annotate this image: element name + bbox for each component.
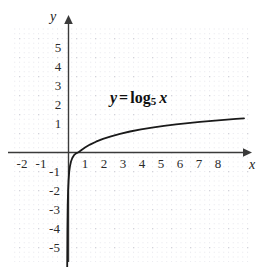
x-tick-label: 1 (79, 157, 91, 170)
y-tick-label: -4 (45, 222, 64, 235)
equation-annotation: y=log5x (110, 90, 167, 107)
y-tick-label: -3 (45, 203, 64, 216)
x-axis-label: x (249, 158, 255, 172)
y-tick-label: -1 (45, 165, 64, 178)
log-function-graph: y x -2 -1 1 2 3 4 5 6 7 8 5 4 3 2 1 -1 -… (0, 0, 262, 267)
equation-function-name: log (130, 89, 150, 106)
y-tick-label: -2 (45, 184, 64, 197)
log-curve (67, 118, 244, 267)
y-tick-label: 3 (52, 79, 64, 92)
x-tick-label: 4 (136, 157, 148, 170)
x-tick-label: -2 (14, 157, 30, 170)
equation-argument: x (156, 89, 167, 106)
x-tick-label: 3 (117, 157, 129, 170)
y-tick-label: 2 (52, 98, 64, 111)
plot-area (0, 0, 262, 267)
x-tick-label: 6 (174, 157, 186, 170)
x-tick-label: 7 (193, 157, 205, 170)
x-tick-label: 5 (155, 157, 167, 170)
x-tick-label: 2 (98, 157, 110, 170)
equation-equals-sign: = (117, 89, 130, 106)
y-tick-label: 1 (52, 117, 64, 130)
x-tick-label: 8 (212, 157, 224, 170)
y-axis (64, 15, 73, 262)
y-tick-label: 5 (52, 41, 64, 54)
y-axis-label: y (50, 10, 56, 24)
y-tick-label: -5 (45, 241, 64, 254)
y-tick-label: 4 (52, 60, 64, 73)
